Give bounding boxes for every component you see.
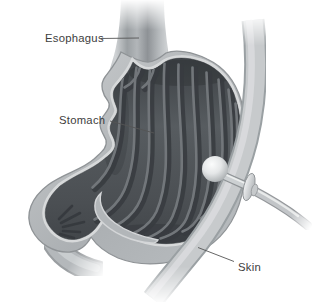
tube-body: [251, 189, 308, 226]
external-tube: [251, 187, 308, 226]
stomach-gastrostomy-figure: Esophagus Stomach Skin: [0, 0, 321, 302]
tube-highlight: [251, 187, 298, 216]
leader-line-esophagus: [101, 38, 140, 39]
label-skin: Skin: [238, 261, 261, 273]
label-esophagus: Esophagus: [45, 32, 104, 44]
label-stomach: Stomach: [59, 114, 105, 126]
balloon: [202, 156, 228, 182]
medical-illustration: Esophagus Stomach Skin: [0, 0, 321, 302]
